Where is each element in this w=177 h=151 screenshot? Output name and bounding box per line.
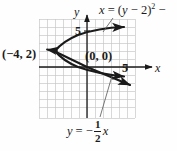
parabola-upper-branch	[55, 27, 124, 51]
math-graph-figure: x = (y − 2)2 − (−4, 2) (0, 0) y = − 1 2 …	[0, 0, 177, 151]
parabola-eq-suffix: −	[155, 3, 165, 17]
leader-line-label	[100, 76, 112, 117]
x-axis-tick-label-5: 5	[122, 62, 128, 74]
line-equation-label: y = − 1 2 x	[67, 119, 108, 144]
origin-point-label: (0, 0)	[85, 50, 112, 63]
x-axis-label: x	[155, 62, 160, 74]
y-axis-label: y	[74, 6, 79, 18]
line-eq-y: y	[67, 125, 73, 138]
y-axis-tick-label-5: 5	[75, 25, 81, 37]
line-eq-x: x	[103, 125, 109, 138]
line-eq-fraction: 1 2	[94, 119, 101, 144]
fraction-denominator: 2	[95, 133, 101, 145]
parabola-eq-equals: = (	[105, 3, 122, 17]
line-eq-negative: −	[86, 125, 93, 138]
fraction-numerator: 1	[95, 119, 101, 131]
parabola-equation-label: x = (y − 2)2 −	[99, 4, 166, 17]
parabola-eq-middle: − 2)	[128, 3, 152, 17]
vertex-point-label: (−4, 2)	[2, 48, 36, 61]
line-eq-equals: =	[74, 125, 85, 138]
leader-parabola-label	[103, 18, 113, 32]
